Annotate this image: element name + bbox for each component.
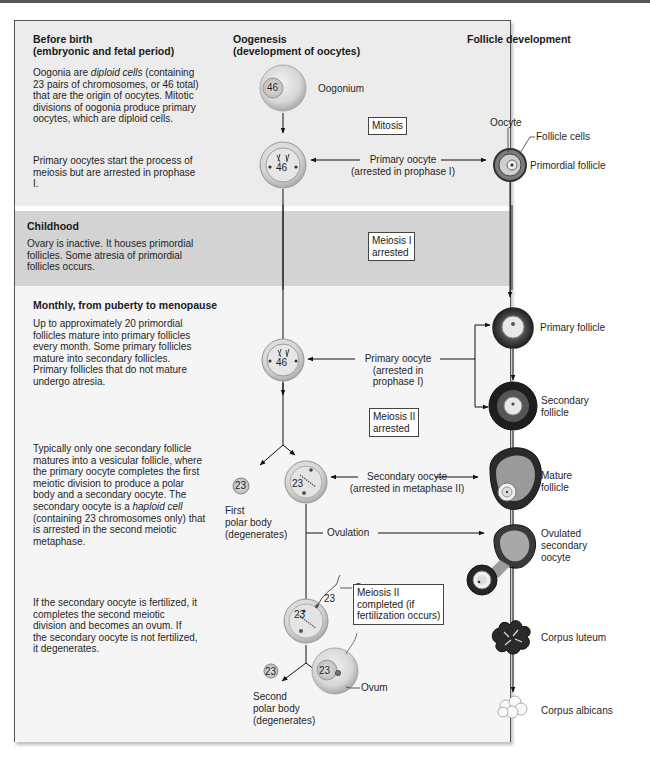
box-line: arrested (373, 423, 415, 435)
stage-title-line2: (embryonic and fetal period) (33, 45, 218, 57)
stage-childhood-title: Childhood (27, 220, 79, 232)
fertilized-oocyte-chromosomes: 23 (294, 609, 305, 621)
meiosis2-completed-box: Meiosis II completed (if fertilization o… (353, 584, 444, 625)
meiosis1-arrested-box: Meiosis I arrested (368, 232, 415, 261)
follicle-cells-label: Follicle cells (536, 131, 590, 143)
first-polar-body-chromosomes: 23 (235, 480, 246, 492)
oogenesis-header-line2: (development of oocytes) (233, 45, 360, 57)
ovum-chromosomes: 23 (319, 665, 330, 677)
italic-term: haploid cell (133, 501, 183, 512)
label-line: First (225, 505, 287, 517)
second-polar-body-chromosomes: 23 (265, 666, 276, 678)
oogenesis-header: Oogenesis (development of oocytes) (233, 33, 360, 57)
label-line: Primary oocyte (343, 154, 463, 166)
label-line: (arrested in prophase I) (343, 166, 463, 178)
box-line: Meiosis II (373, 411, 415, 423)
text: (containing 23 chromosomes only) that is… (33, 513, 205, 547)
label-line: polar body (253, 703, 315, 715)
label-line: Mature (541, 470, 572, 482)
primary-oocyte-2-chromosomes: 46 (276, 357, 287, 369)
box-line: completed (if (357, 599, 440, 611)
stage-before-birth-para2: Primary oocytes start the process of mei… (33, 155, 203, 190)
label-line: polar body (225, 517, 287, 529)
stage-childhood-para1: Ovary is inactive. It houses primordial … (27, 238, 197, 273)
stage-monthly-para2: Typically only one secondary follicle ma… (33, 443, 208, 547)
mature-follicle-label: Mature follicle (541, 470, 572, 494)
corpus-albicans-label: Corpus albicans (541, 705, 613, 717)
box-line: Meiosis I (372, 235, 411, 247)
label-line: follicle (541, 482, 572, 494)
oogonium-chromosomes: 46 (267, 82, 278, 94)
first-polar-body-label: First polar body (degenerates) (225, 505, 287, 541)
italic-term: diploid cells (91, 67, 143, 78)
label-line: Second (253, 691, 315, 703)
label-line: secondary (541, 540, 587, 552)
ovulated-secondary-oocyte-label: Ovulated secondary oocyte (541, 528, 587, 564)
secondary-follicle-label: Secondary follicle (541, 395, 589, 419)
primary-oocyte-chromosomes: 46 (276, 162, 287, 174)
label-line: follicle (541, 407, 589, 419)
stage-title-line1: Before birth (33, 33, 218, 45)
label-line: (arrested in (352, 365, 444, 377)
label-line: Primary oocyte (352, 353, 444, 365)
sperm-chromosomes: 23 (324, 593, 335, 605)
stage-monthly-para3: If the secondary oocyte is fertilized, i… (33, 597, 198, 655)
label-line: (degenerates) (253, 715, 315, 727)
primordial-follicle-label: Primordial follicle (530, 160, 606, 172)
ovulation-label: Ovulation (327, 527, 369, 539)
secondary-oocyte-connector-label: Secondary oocyte (arrested in metaphase … (342, 471, 472, 494)
label-line: Secondary oocyte (342, 471, 472, 483)
meiosis2-arrested-box: Meiosis II arrested (369, 408, 419, 437)
label-line: prophase I) (352, 376, 444, 388)
oogonium-label: Oogonium (318, 83, 364, 95)
box-line: arrested (372, 247, 411, 259)
primary-oocyte-2-connector-label: Primary oocyte (arrested in prophase I) (352, 353, 444, 388)
stage-before-birth-title: Before birth (embryonic and fetal period… (33, 33, 218, 57)
secondary-oocyte-chromosomes: 23 (292, 478, 303, 490)
label-line: Ovulated (541, 528, 587, 540)
oogenesis-header-line1: Oogenesis (233, 33, 360, 45)
label-line: oocyte (541, 552, 587, 564)
label-line: (degenerates) (225, 529, 287, 541)
text: Oogonia are (33, 67, 91, 78)
top-strip (0, 0, 650, 3)
mitosis-box: Mitosis (368, 117, 407, 135)
ovum-label: Ovum (361, 682, 388, 694)
label-line: (arrested in metaphase II) (342, 483, 472, 495)
stage-monthly-title: Monthly, from puberty to menopause (33, 299, 217, 311)
stage-monthly-para1: Up to approximately 20 primordial follic… (33, 318, 203, 388)
primary-oocyte-connector-label: Primary oocyte (arrested in prophase I) (343, 154, 463, 177)
box-line: Meiosis II (357, 587, 440, 599)
corpus-luteum-label: Corpus luteum (541, 632, 606, 644)
box-line: fertilization occurs) (357, 610, 440, 622)
label-line: Secondary (541, 395, 589, 407)
follicle-header: Follicle development (467, 33, 571, 45)
primary-follicle-label: Primary follicle (540, 322, 605, 334)
second-polar-body-label: Second polar body (degenerates) (253, 691, 315, 727)
stage-before-birth-para1: Oogonia are diploid cells (containing 23… (33, 67, 203, 125)
oocyte-label: Oocyte (490, 117, 522, 129)
